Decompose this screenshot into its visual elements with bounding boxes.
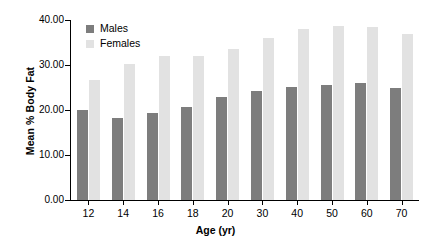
bar-females-20 xyxy=(228,49,239,200)
legend-item-males: Males xyxy=(86,21,140,36)
bar-females-70 xyxy=(402,34,413,201)
y-axis-tick-label: 0.00 xyxy=(0,195,64,205)
bar-females-40 xyxy=(298,29,309,200)
x-axis-tick-mark xyxy=(262,201,263,205)
x-axis-tick-mark xyxy=(123,201,124,205)
bar-females-60 xyxy=(367,27,378,200)
bar-males-16 xyxy=(147,113,158,200)
x-axis-tick-mark xyxy=(88,201,89,205)
bar-males-20 xyxy=(216,97,227,201)
bar-males-18 xyxy=(181,107,192,200)
x-axis-title: Age (yr) xyxy=(0,224,431,236)
x-axis-tick-mark xyxy=(332,201,333,205)
x-axis-tick-mark xyxy=(297,201,298,205)
legend-swatch-females xyxy=(86,40,94,48)
x-axis-tick-mark xyxy=(402,201,403,205)
x-axis-tick-mark xyxy=(158,201,159,205)
bar-males-50 xyxy=(321,85,332,200)
y-axis-tick-label: 20.00 xyxy=(0,105,64,115)
legend-label: Females xyxy=(100,38,140,49)
bar-chart-figure: Mean % Body Fat 0.0010.0020.0030.0040.00… xyxy=(0,0,431,249)
bar-males-70 xyxy=(390,88,401,200)
bar-males-60 xyxy=(355,83,366,200)
legend-item-females: Females xyxy=(86,36,140,51)
x-axis-tick-mark xyxy=(193,201,194,205)
x-axis-tick-label: 70 xyxy=(382,207,422,219)
x-axis-tick-mark xyxy=(367,201,368,205)
bar-females-18 xyxy=(193,56,204,200)
bar-females-14 xyxy=(124,64,135,200)
bar-females-16 xyxy=(159,56,170,200)
legend-swatch-males xyxy=(86,25,94,33)
chart-legend: MalesFemales xyxy=(86,21,140,51)
bar-females-30 xyxy=(263,38,274,200)
bar-females-12 xyxy=(89,80,100,200)
bar-males-14 xyxy=(112,118,123,200)
legend-label: Males xyxy=(100,23,128,34)
bar-females-50 xyxy=(333,26,344,200)
y-axis-tick-label: 40.00 xyxy=(0,15,64,25)
bar-males-30 xyxy=(251,91,262,200)
bar-males-12 xyxy=(77,110,88,200)
y-axis-tick-label: 30.00 xyxy=(0,60,64,70)
bar-males-40 xyxy=(286,87,297,200)
y-axis-tick-label: 10.00 xyxy=(0,150,64,160)
x-axis-tick-mark xyxy=(228,201,229,205)
